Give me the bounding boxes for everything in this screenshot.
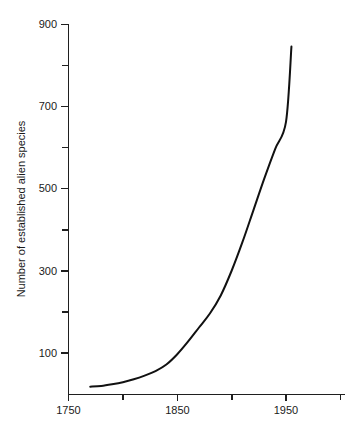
- chart-background: [0, 0, 360, 431]
- y-tick-label: 900: [39, 18, 57, 30]
- x-tick-label: 1850: [165, 404, 189, 416]
- y-axis-title: Number of established alien species: [15, 120, 27, 297]
- x-tick-label: 1750: [56, 404, 80, 416]
- y-tick-label: 500: [39, 182, 57, 194]
- x-tick-label: 1950: [274, 404, 298, 416]
- y-tick-label: 700: [39, 100, 57, 112]
- alien-species-line-chart: 900 700 500 300 100 1750 1850 1950 Numbe…: [0, 0, 360, 431]
- y-tick-label: 300: [39, 265, 57, 277]
- y-tick-label: 100: [39, 347, 57, 359]
- chart-figure: 900 700 500 300 100 1750 1850 1950 Numbe…: [0, 0, 360, 431]
